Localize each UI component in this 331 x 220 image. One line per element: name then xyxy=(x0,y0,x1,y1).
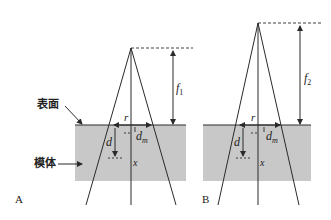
radius-label-a: r xyxy=(124,111,129,123)
panel-label-a: A xyxy=(15,193,23,205)
point-label-a: x xyxy=(132,157,138,168)
focal-distance-label-a: f1 xyxy=(176,81,183,97)
diagram-canvas: f1 r d dm x A 表面 模体 f2 r d dm xyxy=(0,0,331,220)
panel-label-b: B xyxy=(202,193,209,205)
point-label-b: x xyxy=(259,157,265,168)
annotations: 表面 模体 xyxy=(34,97,82,170)
surface-pointer-arrow xyxy=(65,106,82,124)
focal-distance-label-b: f2 xyxy=(304,71,311,87)
depth-label-a: d xyxy=(106,135,113,149)
surface-label: 表面 xyxy=(36,97,59,111)
panel-a: f1 r d dm x A xyxy=(15,48,193,205)
depth-label-b: d xyxy=(234,135,241,149)
panel-b: f2 r d dm x B xyxy=(202,23,322,205)
radius-label-b: r xyxy=(251,111,256,123)
phantom-label: 模体 xyxy=(34,156,57,170)
